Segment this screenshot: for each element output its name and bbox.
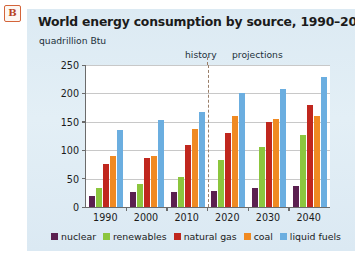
annotation-projections: projections — [232, 49, 283, 60]
legend-label: nuclear — [61, 231, 96, 242]
legend-item-liquid-fuels: liquid fuels — [280, 231, 341, 242]
legend-swatch-icon — [51, 233, 58, 240]
bar-nuclear-2010 — [171, 192, 177, 207]
bar-coal-2030 — [273, 119, 279, 207]
bar-coal-1990 — [110, 156, 116, 207]
chart-figure: World energy consumption by source, 1990… — [27, 9, 355, 251]
x-tick-label: 2020 — [215, 212, 239, 223]
x-tick-label: 2040 — [296, 212, 320, 223]
bar-nuclear-2040 — [293, 186, 299, 207]
bar-nuclear-2000 — [130, 192, 136, 207]
x-tick-mark — [248, 207, 249, 211]
plot-area: 050100150200250 — [85, 65, 330, 208]
x-tick-label: 2000 — [134, 212, 158, 223]
x-tick-mark — [207, 207, 208, 211]
bar-nuclear-1990 — [89, 196, 95, 207]
chart-page: B World energy consumption by source, 19… — [0, 0, 358, 254]
panel-badge: B — [4, 5, 21, 22]
chart-legend: nuclearrenewablesnatural gascoalliquid f… — [51, 231, 341, 242]
legend-swatch-icon — [103, 233, 110, 240]
legend-item-natural-gas: natural gas — [174, 231, 237, 242]
y-axis-title: quadrillion Btu — [39, 35, 106, 46]
bar-group — [86, 65, 127, 207]
y-tick-label: 200 — [61, 88, 79, 99]
legend-label: renewables — [113, 231, 167, 242]
legend-swatch-icon — [174, 233, 181, 240]
y-tick-label: 100 — [61, 145, 79, 156]
bar-renewables-2030 — [259, 147, 265, 207]
legend-item-nuclear: nuclear — [51, 231, 96, 242]
x-tick-mark — [288, 207, 289, 211]
bar-coal-2020 — [232, 116, 238, 207]
y-tick-label: 250 — [61, 60, 79, 71]
bar-nuclear-2030 — [252, 188, 258, 207]
legend-swatch-icon — [244, 233, 251, 240]
bar-natural-gas-2040 — [307, 105, 313, 207]
bar-group — [289, 65, 330, 207]
x-tick-label: 1990 — [93, 212, 117, 223]
bar-natural-gas-1990 — [103, 164, 109, 207]
chart-title: World energy consumption by source, 1990… — [38, 14, 349, 29]
y-tick-label: 50 — [67, 173, 79, 184]
bar-liquid-fuels-2040 — [321, 77, 327, 207]
bar-group — [208, 65, 249, 207]
bar-coal-2000 — [151, 156, 157, 207]
bar-liquid-fuels-2000 — [158, 120, 164, 207]
bar-natural-gas-2020 — [225, 133, 231, 207]
bar-natural-gas-2010 — [185, 145, 191, 207]
legend-item-coal: coal — [244, 231, 273, 242]
legend-label: liquid fuels — [290, 231, 341, 242]
bar-liquid-fuels-2030 — [280, 89, 286, 207]
period-divider-top — [207, 57, 208, 65]
bar-renewables-1990 — [96, 188, 102, 207]
bar-natural-gas-2030 — [266, 122, 272, 207]
bar-group — [249, 65, 290, 207]
legend-item-renewables: renewables — [103, 231, 167, 242]
y-tick-label: 0 — [73, 202, 79, 213]
legend-label: coal — [254, 231, 273, 242]
y-tick-label: 150 — [61, 116, 79, 127]
bar-renewables-2010 — [178, 177, 184, 207]
bar-group — [167, 65, 208, 207]
legend-label: natural gas — [184, 231, 237, 242]
x-tick-label: 2010 — [174, 212, 198, 223]
legend-swatch-icon — [280, 233, 287, 240]
bar-liquid-fuels-1990 — [117, 130, 123, 207]
bar-coal-2040 — [314, 116, 320, 207]
bar-group — [127, 65, 168, 207]
x-tick-label: 2030 — [256, 212, 280, 223]
bar-natural-gas-2000 — [144, 158, 150, 207]
bar-nuclear-2020 — [211, 191, 217, 207]
bar-renewables-2000 — [137, 184, 143, 207]
bar-renewables-2020 — [218, 160, 224, 207]
period-divider — [208, 65, 209, 207]
x-tick-mark — [166, 207, 167, 211]
bar-renewables-2040 — [300, 135, 306, 207]
bar-liquid-fuels-2020 — [239, 93, 245, 207]
annotation-history: history — [185, 49, 217, 60]
bar-coal-2010 — [192, 129, 198, 207]
x-axis: 199020002010202020302040 — [85, 207, 329, 225]
x-tick-mark — [126, 207, 127, 211]
bar-liquid-fuels-2010 — [199, 112, 205, 207]
